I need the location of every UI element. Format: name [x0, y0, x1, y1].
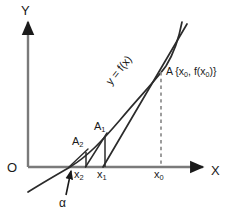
- origin-label: O: [7, 161, 17, 174]
- a2-subscript: 2: [79, 140, 83, 149]
- y-axis-label: Y: [21, 4, 30, 17]
- x2-base: x: [74, 168, 80, 180]
- x2-subscript: 2: [80, 173, 84, 182]
- x1-tick-label: x1: [97, 169, 107, 180]
- point-a-tail: )}: [210, 65, 217, 77]
- a1-subscript: 1: [101, 125, 105, 134]
- newton-method-diagram: Y X O α x0 x1 x2 A1 A2 A {x0, f(x0)} y =…: [0, 0, 230, 219]
- x-axis-label: X: [211, 164, 220, 177]
- point-a2-label: A2: [72, 136, 84, 147]
- tangent-line-at-a: [103, 24, 187, 167]
- x0-tick-label: x0: [154, 169, 164, 180]
- point-a-coordinates-label: A {x0, f(x0)}: [166, 66, 217, 77]
- x0-base: x: [154, 168, 160, 180]
- point-a-sub1: 0: [184, 71, 188, 79]
- x0-subscript: 0: [160, 173, 164, 182]
- x1-base: x: [97, 168, 103, 180]
- diagram-canvas: [0, 0, 230, 219]
- x2-tick-label: x2: [74, 169, 84, 180]
- tangent-line-at-a2: [69, 149, 88, 167]
- x1-subscript: 1: [103, 173, 107, 182]
- tangent-line-at-a1: [86, 133, 108, 167]
- alpha-pointer-arrow: [66, 171, 71, 195]
- point-a1-label: A1: [94, 121, 106, 132]
- point-a-mid: , f(x: [188, 65, 206, 77]
- alpha-root-label: α: [59, 197, 66, 209]
- point-a-sub2: 0: [206, 71, 210, 79]
- point-a-base: A {x: [166, 65, 184, 77]
